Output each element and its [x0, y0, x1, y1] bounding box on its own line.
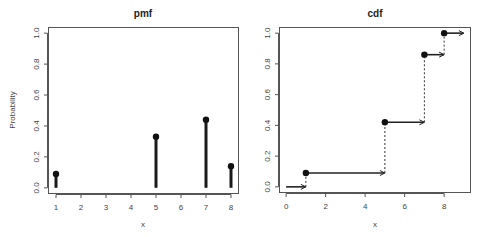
cdf-panel: cdf 0.00.20.40.60.81.0 02468 x — [263, 8, 470, 229]
cdf-point — [441, 30, 447, 36]
pmf-y-tick-label: 1.0 — [32, 27, 41, 39]
pmf-x-tick-label: 5 — [154, 203, 159, 212]
pmf-point — [203, 117, 209, 123]
pmf-y-tick-label: 0.8 — [32, 58, 41, 70]
pmf-stems — [53, 117, 234, 188]
pmf-x-tick-label: 6 — [179, 203, 184, 212]
cdf-y-tick-label: 1.0 — [263, 27, 272, 39]
chart-figure: pmf 0.00.20.40.60.81.0 12345678 x Probab… — [0, 0, 482, 237]
pmf-x-axis: 12345678 — [54, 195, 234, 213]
cdf-plot-frame — [280, 28, 471, 193]
pmf-y-tick-label: 0.0 — [32, 182, 41, 194]
cdf-x-tick-label: 6 — [402, 202, 407, 211]
cdf-y-axis: 0.00.20.40.60.81.0 — [263, 27, 278, 192]
cdf-y-tick-label: 0.0 — [263, 181, 272, 193]
pmf-x-axis-label: x — [141, 220, 145, 229]
cdf-point — [303, 170, 309, 176]
cdf-point — [382, 119, 388, 125]
pmf-x-tick-label: 3 — [104, 203, 109, 212]
cdf-y-tick-label: 0.4 — [263, 119, 272, 131]
pmf-y-axis-label: Probability — [8, 91, 17, 128]
pmf-x-tick-label: 1 — [54, 203, 59, 212]
cdf-steps — [286, 30, 464, 189]
cdf-title: cdf — [368, 8, 384, 19]
cdf-y-tick-label: 0.8 — [263, 58, 272, 70]
cdf-x-axis: 02468 — [284, 194, 447, 212]
pmf-point — [53, 171, 59, 177]
pmf-x-tick-label: 7 — [204, 203, 209, 212]
pmf-y-tick-label: 0.6 — [32, 89, 41, 101]
pmf-x-tick-label: 4 — [129, 203, 134, 212]
cdf-x-tick-label: 8 — [442, 202, 447, 211]
pmf-x-tick-label: 2 — [79, 203, 84, 212]
pmf-point — [153, 134, 159, 140]
cdf-x-tick-label: 0 — [284, 202, 289, 211]
cdf-x-axis-label: x — [373, 220, 377, 229]
pmf-x-tick-label: 8 — [229, 203, 234, 212]
pmf-panel: pmf 0.00.20.40.60.81.0 12345678 x Probab… — [8, 8, 239, 229]
pmf-plot-frame — [49, 28, 239, 194]
cdf-point — [421, 51, 427, 57]
pmf-y-tick-label: 0.4 — [32, 120, 41, 132]
pmf-y-tick-label: 0.2 — [32, 151, 41, 163]
cdf-y-tick-label: 0.6 — [263, 89, 272, 101]
pmf-y-axis: 0.00.20.40.60.81.0 — [32, 27, 47, 193]
cdf-x-tick-label: 2 — [323, 202, 328, 211]
pmf-title: pmf — [134, 8, 153, 19]
cdf-y-tick-label: 0.2 — [263, 150, 272, 162]
pmf-point — [228, 163, 234, 169]
cdf-x-tick-label: 4 — [363, 202, 368, 211]
